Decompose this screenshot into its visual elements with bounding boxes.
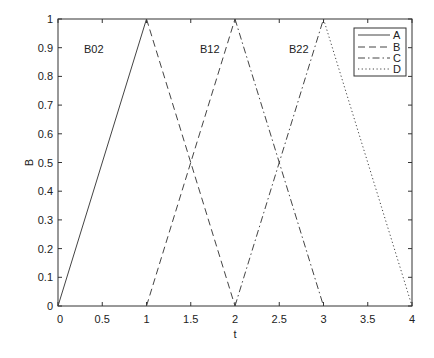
series-a-line (58, 19, 147, 306)
x-tick-label: 3.5 (360, 313, 375, 325)
y-tick-label: 1 (47, 13, 53, 25)
chart: 0 0.5 1 1.5 2 2.5 3 3.5 4 0 0.1 0.2 0.3 … (0, 0, 434, 358)
y-tick-label: 0.3 (38, 214, 53, 226)
annotation-b02: B02 (84, 43, 104, 55)
legend: A B C D (354, 28, 406, 76)
y-tick-labels: 0 0.1 0.2 0.3 0.4 0.5 0.6 0.7 0.8 0.9 1 (38, 13, 53, 312)
x-tick-label: 0.5 (95, 313, 110, 325)
y-tick-label: 0.5 (38, 157, 53, 169)
y-tick-label: 0.1 (38, 271, 53, 283)
x-tick-label: 0 (57, 313, 63, 325)
x-tick-label: 2 (232, 313, 238, 325)
x-tick-label: 1.5 (183, 313, 198, 325)
y-tick-label: 0.8 (38, 70, 53, 82)
x-tick-labels: 0 0.5 1 1.5 2 2.5 3 3.5 4 (57, 313, 415, 325)
x-tick-label: 1 (143, 313, 149, 325)
legend-label-d: D (393, 63, 401, 75)
annotation-b12: B12 (200, 43, 220, 55)
x-axis-label: t (233, 328, 236, 340)
legend-label-a: A (393, 29, 401, 41)
x-tick-label: 4 (409, 313, 415, 325)
y-tick-label: 0.4 (38, 185, 53, 197)
x-tick-label: 3 (320, 313, 326, 325)
y-tick-label: 0.9 (38, 42, 53, 54)
y-axis-label: B (23, 159, 35, 166)
y-tick-label: 0.2 (38, 243, 53, 255)
x-tick-label: 2.5 (272, 313, 287, 325)
y-tick-label: 0.7 (38, 99, 53, 111)
y-tick-label: 0.6 (38, 128, 53, 140)
annotation-b22: B22 (289, 43, 309, 55)
y-tick-label: 0 (47, 300, 53, 312)
